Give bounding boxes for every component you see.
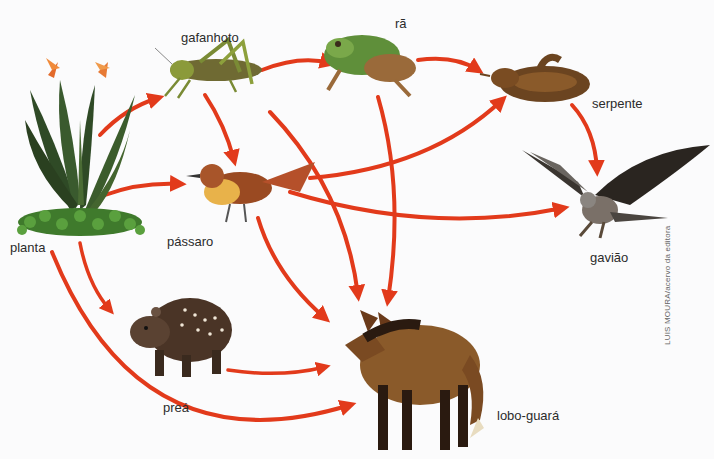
- label-prea: preá: [163, 400, 189, 415]
- label-gaviao: gavião: [590, 250, 628, 265]
- arrow-ra-lobo: [378, 97, 395, 300]
- label-lobo-guara: lobo-guará: [497, 408, 559, 423]
- arrow-gafanhoto-ra: [262, 60, 330, 70]
- image-credit: LUIS MOURA/acervo da editora: [663, 226, 672, 345]
- arrow-gafanhoto-lobo: [270, 112, 358, 295]
- arrow-planta-prea: [80, 243, 110, 310]
- grasshopper-illustration: [155, 40, 262, 98]
- frog-illustration: [324, 35, 416, 96]
- label-serpente: serpente: [592, 96, 643, 111]
- food-web-arrows: [52, 59, 597, 420]
- arrow-ra-serpente: [418, 59, 478, 70]
- arrow-planta-passaro: [105, 184, 180, 195]
- snake-illustration: [480, 57, 590, 102]
- arrow-gafanhoto-passaro: [205, 95, 234, 160]
- label-passaro: pássaro: [167, 234, 213, 249]
- arrow-passaro-serpente: [310, 100, 502, 178]
- diagram-artwork: [0, 0, 714, 459]
- label-ra: rã: [395, 16, 407, 31]
- paca-illustration: [130, 298, 232, 377]
- label-gafanhoto: gafanhoto: [181, 30, 239, 45]
- plant-illustration: [17, 58, 145, 236]
- arrow-serpente-gaviao: [572, 105, 597, 170]
- arrow-passaro-lobo: [258, 218, 325, 318]
- food-web-diagram: gafanhoto rã serpente planta pássaro gav…: [0, 0, 714, 459]
- hawk-illustration: [522, 145, 710, 238]
- arrow-prea-lobo: [228, 367, 325, 373]
- maned-wolf-illustration: [345, 310, 484, 450]
- label-planta: planta: [10, 240, 45, 255]
